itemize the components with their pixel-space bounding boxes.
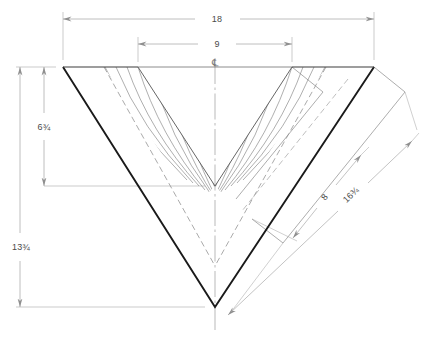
drawing-svg: ℄ 18 9 6¾ 13¾ 8 bbox=[0, 0, 429, 359]
centerline-symbol: ℄ bbox=[211, 57, 219, 68]
dimension-label-inner-width: 9 bbox=[214, 39, 219, 49]
dimension-label-overall-width: 18 bbox=[212, 14, 222, 24]
dimension-label-inner-depth: 6¾ bbox=[38, 122, 51, 132]
dimension-label-overall-depth: 13¾ bbox=[12, 242, 30, 252]
technical-drawing-canvas: ℄ 18 9 6¾ 13¾ 8 bbox=[0, 0, 429, 359]
